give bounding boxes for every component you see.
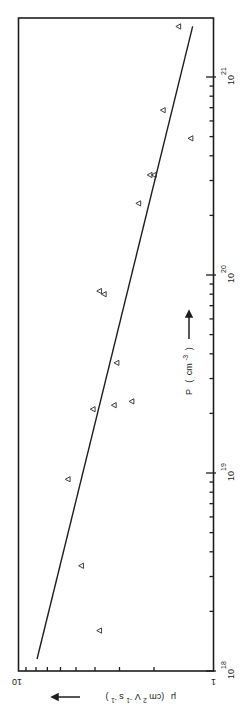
svg-text:10: 10 bbox=[226, 669, 236, 679]
triangle-marker-icon bbox=[97, 288, 102, 293]
triangle-marker-icon bbox=[65, 477, 70, 482]
x-label-symbol: P bbox=[184, 389, 194, 395]
x-axis-label: P ( cm -3 ) bbox=[180, 311, 194, 395]
plot-frame bbox=[19, 18, 214, 671]
triangle-marker-icon bbox=[97, 628, 102, 633]
svg-text:1: 1 bbox=[211, 677, 216, 687]
triangle-marker-icon bbox=[176, 24, 181, 29]
triangle-marker-icon bbox=[90, 407, 95, 412]
triangle-marker-icon bbox=[136, 201, 141, 206]
x-tick-label: 1020 bbox=[220, 265, 236, 283]
y-tick-label: 10 bbox=[12, 677, 22, 687]
fit-line bbox=[37, 26, 193, 659]
x-tick-label: 1018 bbox=[220, 661, 236, 679]
x-tick-label: 1019 bbox=[220, 463, 236, 481]
x-tick-label: 1021 bbox=[220, 67, 236, 85]
y-tick-label: 1 bbox=[211, 677, 216, 687]
svg-text:μ (cm 2 V: μ (cm 2 V -1 s -1 ) bbox=[106, 692, 177, 706]
triangle-marker-icon bbox=[79, 563, 84, 568]
triangle-marker-icon bbox=[111, 403, 116, 408]
svg-text:19: 19 bbox=[220, 463, 227, 471]
data-points bbox=[65, 24, 193, 633]
y-axis-arrowhead-icon bbox=[52, 694, 58, 700]
triangle-marker-icon bbox=[101, 292, 106, 297]
y-axis-label: μ (cm 2 V -1 s -1 ) bbox=[52, 692, 176, 706]
triangle-marker-icon bbox=[114, 360, 119, 365]
regression-line bbox=[37, 26, 193, 659]
svg-text:20: 20 bbox=[220, 265, 227, 273]
svg-text:10: 10 bbox=[226, 75, 236, 85]
svg-text:10: 10 bbox=[12, 677, 22, 687]
svg-text:18: 18 bbox=[220, 661, 227, 669]
x-axis-arrowhead-icon bbox=[186, 311, 192, 317]
x-tick-labels: 1018101910201021 bbox=[220, 67, 236, 679]
svg-text:10: 10 bbox=[226, 471, 236, 481]
svg-text:P ( cm -3: P ( cm -3 ) bbox=[180, 347, 194, 395]
mobility-vs-concentration-chart: 1018101910201021 110 P ( cm -3 ) μ (cm 2… bbox=[0, 0, 248, 719]
svg-text:21: 21 bbox=[220, 67, 227, 75]
y-tick-labels: 110 bbox=[12, 677, 216, 687]
triangle-marker-icon bbox=[160, 108, 165, 113]
svg-text:10: 10 bbox=[226, 273, 236, 283]
y-label-symbol: μ bbox=[171, 692, 176, 702]
triangle-marker-icon bbox=[188, 136, 193, 141]
triangle-marker-icon bbox=[129, 399, 134, 404]
